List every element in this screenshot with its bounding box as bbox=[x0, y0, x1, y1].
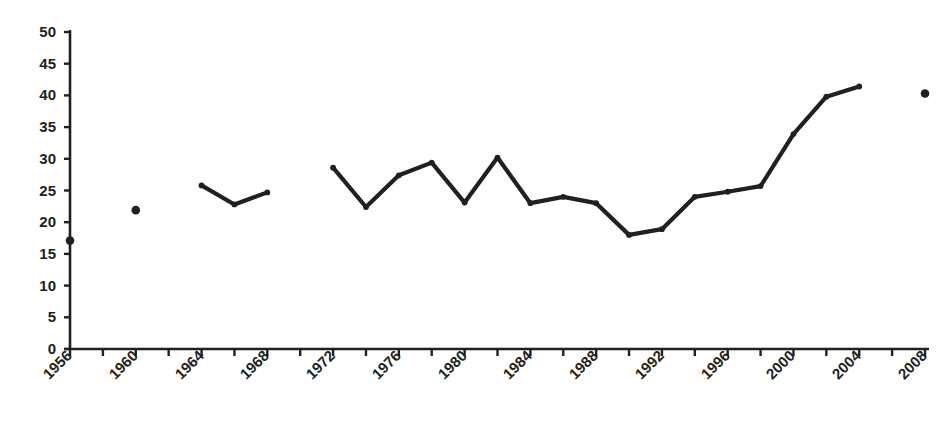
y-axis-tick-label: 5 bbox=[22, 309, 56, 324]
y-axis-tick-label: 50 bbox=[22, 24, 56, 39]
y-axis-tick-label: 40 bbox=[22, 87, 56, 102]
data-point-marker bbox=[264, 190, 270, 196]
y-axis-tick-label: 30 bbox=[22, 151, 56, 166]
data-point-marker bbox=[330, 165, 336, 171]
data-line-segment-1972-2004 bbox=[333, 87, 859, 235]
data-point-marker bbox=[921, 89, 930, 98]
axis-group bbox=[64, 30, 929, 356]
data-point-marker bbox=[725, 189, 731, 195]
data-point-marker bbox=[692, 194, 698, 200]
data-point-marker bbox=[131, 206, 140, 215]
y-axis-tick-label: 35 bbox=[22, 119, 56, 134]
data-point-marker bbox=[791, 131, 797, 137]
data-point-marker bbox=[429, 160, 435, 166]
chart-canvas bbox=[0, 0, 943, 434]
data-point-marker bbox=[626, 232, 632, 238]
data-point-marker bbox=[462, 200, 468, 206]
data-point-marker bbox=[593, 200, 599, 206]
data-point-marker bbox=[758, 183, 764, 189]
data-point-marker bbox=[232, 202, 238, 208]
data-point-marker bbox=[659, 226, 665, 232]
data-point-marker bbox=[823, 94, 829, 100]
data-point-marker bbox=[495, 155, 501, 161]
data-point-marker bbox=[560, 194, 566, 200]
y-axis-tick-label: 45 bbox=[22, 56, 56, 71]
data-point-marker bbox=[66, 236, 75, 245]
data-series-group bbox=[66, 84, 930, 245]
chart-container: 05101520253035404550 1956196019641968197… bbox=[0, 0, 943, 434]
y-axis-tick-label: 20 bbox=[22, 214, 56, 229]
data-point-marker bbox=[527, 200, 533, 206]
data-point-marker bbox=[363, 204, 369, 210]
data-point-marker bbox=[856, 84, 862, 90]
data-point-marker bbox=[396, 172, 402, 178]
y-axis-tick-label: 0 bbox=[22, 341, 56, 356]
y-axis-tick-label: 25 bbox=[22, 183, 56, 198]
data-point-marker bbox=[199, 183, 205, 189]
y-axis-tick-label: 10 bbox=[22, 278, 56, 293]
y-axis-tick-label: 15 bbox=[22, 246, 56, 261]
